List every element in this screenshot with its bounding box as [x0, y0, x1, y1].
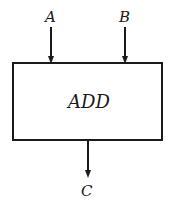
arrow-c	[85, 140, 91, 178]
arrow-b	[122, 27, 128, 64]
input-label-a: A	[45, 8, 56, 26]
arrow-a	[48, 27, 54, 64]
input-label-b: B	[119, 8, 130, 26]
block-label-add: ADD	[68, 91, 110, 112]
output-label-c: C	[81, 182, 92, 200]
